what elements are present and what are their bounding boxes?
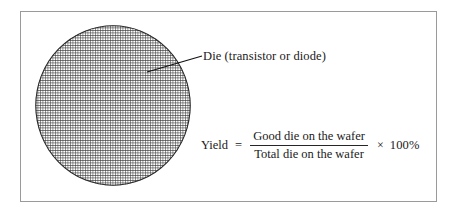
yield-fraction: Good die on the wafer Total die on the w… [250, 129, 368, 162]
equals-sign: = [235, 138, 250, 153]
fraction-denominator: Total die on the wafer [251, 146, 367, 162]
yield-term: Yield [201, 138, 235, 153]
multiplication-sign: × [368, 138, 390, 153]
wafer-yield-figure: Die (transistor or diode) Yield = Good d… [0, 0, 459, 214]
yield-equation: Yield = Good die on the wafer Total die … [201, 129, 420, 162]
leader-line [140, 45, 210, 80]
die-label: Die (transistor or diode) [203, 49, 326, 64]
fraction-numerator: Good die on the wafer [250, 129, 368, 145]
percent-multiplier: 100% [390, 138, 420, 153]
